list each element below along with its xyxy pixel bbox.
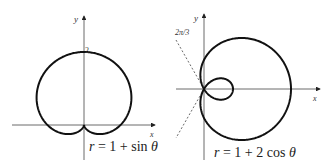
right-plot: y x 2π/3 r = 1 + 2 cos θ	[175, 13, 320, 160]
right-x-label: x	[312, 94, 317, 103]
left-x-label: x	[149, 130, 154, 139]
left-y-label: y	[73, 14, 78, 24]
angle-label: 2π/3	[175, 28, 189, 37]
dashed-line-2pi-3	[176, 40, 204, 89]
right-y-label: y	[193, 13, 198, 23]
right-equation: r = 1 + 2 cos θ	[214, 145, 296, 160]
left-plot: y x 2 r = 1 + sin θ	[12, 14, 158, 160]
left-equation: r = 1 + sin θ	[89, 139, 158, 154]
dashed-line-4pi-3	[176, 89, 204, 138]
figure: y x 2 r = 1 + sin θ y x 2π/3 r = 1 + 2 c…	[0, 0, 321, 167]
left-tick-2: 2	[85, 46, 89, 55]
